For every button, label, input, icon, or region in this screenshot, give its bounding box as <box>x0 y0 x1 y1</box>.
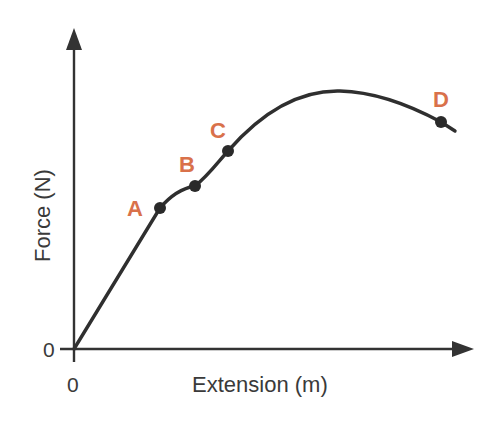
point-c: C <box>210 118 234 157</box>
x-axis-arrow-icon <box>452 341 474 357</box>
point-d-marker <box>435 116 447 128</box>
point-c-label: C <box>210 118 226 143</box>
axes <box>60 28 474 362</box>
point-d-label: D <box>433 87 449 112</box>
point-a-marker <box>154 202 166 214</box>
point-a-label: A <box>127 196 143 221</box>
x-tick-zero: 0 <box>67 373 79 396</box>
y-tick-zero: 0 <box>43 338 55 361</box>
x-axis-label: Extension (m) <box>192 372 328 397</box>
point-d: D <box>433 87 449 128</box>
point-b-marker <box>189 180 201 192</box>
y-axis-arrow-icon <box>66 28 82 50</box>
point-c-marker <box>222 145 234 157</box>
point-b-label: B <box>179 152 195 177</box>
point-a: A <box>127 196 166 221</box>
y-axis-label: Force (N) <box>30 169 55 262</box>
point-b: B <box>179 152 201 192</box>
force-extension-chart: 0 0 Extension (m) Force (N) A B C D <box>0 0 500 422</box>
